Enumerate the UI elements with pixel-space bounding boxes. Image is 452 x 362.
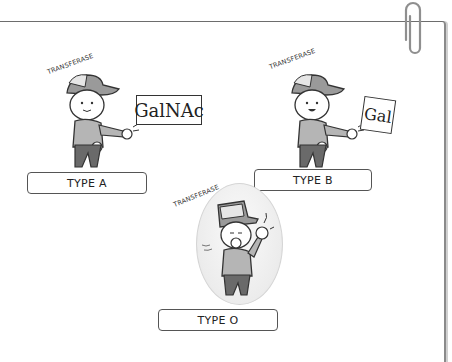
caption-type-o: TYPE O <box>158 309 278 331</box>
caption-text-b: TYPE B <box>293 174 333 187</box>
caption-type-b: TYPE B <box>254 169 372 191</box>
caption-text-a: TYPE A <box>67 177 107 190</box>
caption-type-a: TYPE A <box>27 172 147 194</box>
caption-text-o: TYPE O <box>198 314 239 327</box>
transferase-character-o <box>200 195 285 300</box>
sugar-card-gal: Gal <box>360 96 396 134</box>
sugar-label-a: GalNAc <box>134 100 204 121</box>
paperclip-icon <box>398 0 428 60</box>
sugar-label-b: Gal <box>363 104 393 127</box>
sugar-card-galnac: GalNAc <box>136 95 202 125</box>
